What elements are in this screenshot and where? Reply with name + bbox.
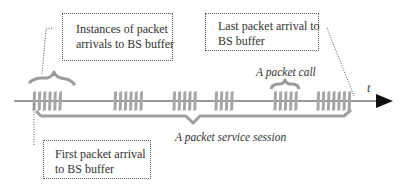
service-session-brace [36,110,351,123]
packet-arrival-mark [140,91,144,111]
packet-arrival-mark [129,91,133,111]
packet-arrival-mark [178,91,182,111]
packet-arrival-mark [337,91,341,111]
packet-arrival-mark [59,91,63,111]
packet-arrival-mark [114,91,118,111]
packet-arrival-mark [38,91,42,111]
packet-arrival-mark [279,91,283,111]
packet-arrival-mark [188,91,192,111]
axis-arrowhead-icon [376,94,393,108]
packet-call-label: A packet call [256,66,316,78]
packet-arrival-mark [317,91,321,111]
packet-arrival-mark [124,91,128,111]
first-arrival-callout-line-1: First packet arrival [55,147,150,162]
packet-arrival-mark [43,91,47,111]
packet-arrival-mark [48,91,52,111]
packet-arrival-mark [119,91,123,111]
packet-arrival-mark [284,91,288,111]
instances-callout-line-2: arrivals to BS buffer [76,37,172,52]
instances-leader-line [42,28,52,74]
first-arrival-callout-line-2: to BS buffer [55,162,150,177]
packet-arrival-mark [225,91,229,111]
last-arrival-callout-line-2: BS buffer [218,34,318,49]
last-arrival-callout-line-1: Last packet arrival to [218,19,318,34]
last-arrival-callout-box: Last packet arrival to BS buffer [205,13,319,51]
last-arrival-leader-line [327,28,354,96]
packet-arrival-mark [193,91,197,111]
packet-arrival-mark [348,91,352,111]
time-axis-label: t [367,81,370,96]
packet-arrival-mark [332,91,336,111]
packet-arrival-mark [294,91,298,111]
packet-arrival-mark [220,91,224,111]
packet-call-brace [271,80,299,89]
packet-arrival-mark [274,91,278,111]
packet-arrival-mark [53,91,57,111]
instances-callout-box: Instances of packet arrivals to BS buffe… [62,13,173,61]
service-session-label: A packet service session [175,131,286,143]
packet-arrival-mark [327,91,331,111]
packet-arrival-mark [33,91,37,111]
packet-arrival-mark [289,91,293,111]
packet-arrival-mark [343,91,347,111]
instances-brace [29,72,75,85]
packet-arrival-mark [173,91,177,111]
packet-arrival-mark [230,91,234,111]
packet-arrival-mark [134,91,138,111]
packet-arrival-mark [215,91,219,111]
packet-arrival-mark [322,91,326,111]
packet-arrival-mark [183,91,187,111]
first-arrival-callout-box: First packet arrival to BS buffer [43,140,151,179]
instances-callout-line-1: Instances of packet [76,22,172,37]
